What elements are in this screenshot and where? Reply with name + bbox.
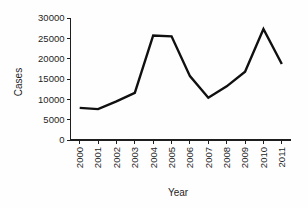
x-axis-tick-label: 2004 — [148, 147, 159, 168]
y-axis-tick-label: 20000 — [38, 53, 64, 64]
x-axis-tick-label: 2001 — [92, 147, 103, 168]
x-axis-tick-label: 2009 — [239, 147, 250, 168]
x-axis-tick-labels: 2000200120022003200420052006200720082009… — [74, 147, 287, 168]
y-axis-tick-labels: 050001000015000200002500030000 — [38, 12, 64, 145]
x-axis-tick-label: 2008 — [221, 147, 232, 168]
x-axis-tick-label: 2010 — [258, 147, 269, 168]
y-axis-tick-label: 15000 — [38, 73, 64, 84]
x-axis-tick-label: 2003 — [129, 147, 140, 168]
y-axis-tick-label: 30000 — [38, 12, 64, 23]
x-axis-tick-label: 2006 — [184, 147, 195, 168]
y-axis-tick-label: 0 — [59, 134, 64, 145]
y-axis-tick-label: 25000 — [38, 33, 64, 44]
cases-series-line — [80, 29, 282, 109]
x-axis-tick-label: 2011 — [276, 147, 287, 167]
x-axis-tick-label: 2000 — [74, 147, 85, 168]
y-axis-tick-label: 5000 — [43, 114, 64, 125]
line-chart: 050001000015000200002500030000 200020012… — [0, 0, 308, 208]
x-axis-tick-label: 2002 — [111, 147, 122, 168]
x-axis-tick-label: 2005 — [166, 147, 177, 168]
x-axis-tick-label: 2007 — [203, 147, 214, 168]
y-axis-tick-label: 10000 — [38, 94, 64, 105]
y-axis-title: Cases — [13, 68, 24, 96]
chart-figure: 050001000015000200002500030000 200020012… — [0, 0, 308, 208]
x-axis-title: Year — [168, 187, 189, 198]
